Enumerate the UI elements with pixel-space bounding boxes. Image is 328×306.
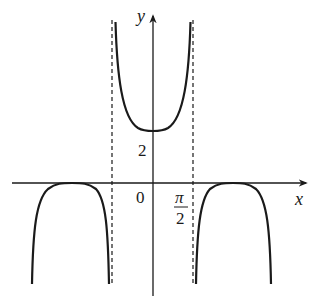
fraction-denominator: 2	[176, 209, 185, 228]
function-graph: y x 0 2 π 2	[0, 0, 328, 306]
y-tick-2-label: 2	[138, 141, 147, 160]
y-axis-label: y	[135, 6, 145, 26]
x-tick-pi-over-2-label: π 2	[174, 188, 188, 228]
origin-label: 0	[136, 188, 145, 207]
fraction-numerator: π	[175, 188, 184, 207]
right-branch-curve	[196, 183, 271, 284]
x-axis-label: x	[294, 189, 303, 209]
left-branch-curve	[32, 183, 109, 284]
